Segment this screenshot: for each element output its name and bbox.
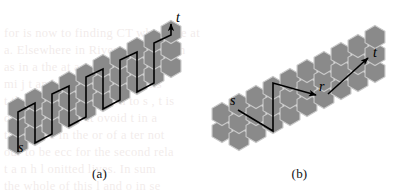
node-label-s: s [18,140,24,155]
node-label-s: s [230,93,236,108]
hex-grid-diagram-a: s t [0,0,199,166]
hex-grid-diagram-b: s r t [200,0,399,166]
hexagon-cells-a [8,21,181,155]
panel-caption-a: (a) [0,166,199,182]
hexagon-cells-b [212,26,385,151]
node-label-r: r [319,79,325,94]
node-label-t: t [176,10,181,25]
panel-b: s r t (b) [200,0,399,193]
panel-caption-b: (b) [200,166,399,182]
panel-a: s t (a) [0,0,199,193]
figure-root: for is now to finding CT which we at a. … [0,0,399,193]
